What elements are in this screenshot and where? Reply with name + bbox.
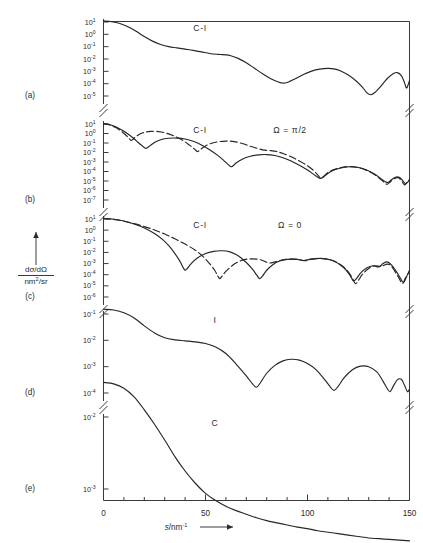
y-tick-label-b-1: 100 (85, 128, 96, 138)
y-tick-label-c-3: 10-2 (83, 247, 96, 257)
y-tick-label-a-0: 101 (85, 17, 96, 27)
y-tick-label-a-3: 10-2 (83, 54, 96, 64)
curve-condition-c: Ω = 0 (278, 220, 302, 230)
curve-label-b: C-I (193, 125, 206, 135)
y-tick-label-b-5: 10-4 (83, 166, 96, 176)
y-tick-label-a-1: 100 (85, 29, 96, 39)
curve-label-e: C (212, 418, 219, 428)
y-tick-label-d-0: 10-1 (83, 309, 96, 319)
y-tick-label-c-7: 10-6 (83, 292, 96, 302)
y-tick-label-e-0: 10-2 (83, 412, 96, 422)
curve-b-0 (104, 124, 410, 184)
y-tick-label-c-0: 101 (85, 214, 96, 224)
scattering-cross-section-figure: 10110010-110-210-310-410-5C-I(a)10110010… (0, 0, 423, 543)
x-axis-title: s/nm-1 (165, 522, 188, 532)
y-axis-title-numerator: dσ/dΩ (25, 265, 47, 274)
y-tick-label-b-6: 10-5 (83, 176, 96, 186)
y-tick-label-b-7: 10-6 (83, 185, 96, 195)
x-tick-label-2: 100 (301, 509, 315, 518)
panel-letter-c: (c) (25, 292, 35, 301)
y-tick-label-e-1: 10-3 (83, 484, 96, 494)
curve-d-0 (104, 309, 410, 392)
panel-letter-a: (a) (25, 91, 35, 100)
y-axis-arrow-head (33, 232, 39, 238)
y-tick-label-d-3: 10-4 (83, 388, 96, 398)
y-tick-label-c-5: 10-4 (83, 269, 96, 279)
curve-label-d: I (214, 315, 217, 325)
y-tick-label-a-5: 10-4 (83, 78, 96, 88)
curve-condition-b: Ω = π/2 (273, 125, 307, 135)
curve-b-1 (104, 124, 410, 185)
y-tick-label-c-6: 10-5 (83, 280, 96, 290)
x-tick-label-1: 50 (201, 509, 211, 518)
panel-letter-e: (e) (25, 484, 35, 493)
y-tick-label-c-1: 100 (85, 225, 96, 235)
x-tick-label-3: 150 (403, 509, 417, 518)
y-tick-label-c-4: 10-3 (83, 258, 96, 268)
curve-label-a: C-I (193, 23, 206, 33)
y-axis-title-denominator: nm2/sr (24, 276, 47, 286)
y-tick-label-d-2: 10-3 (83, 361, 96, 371)
curve-e-0 (104, 382, 410, 540)
y-tick-label-d-1: 10-2 (83, 335, 96, 345)
panel-letter-d: (d) (25, 388, 35, 397)
y-tick-label-a-6: 10-5 (83, 91, 96, 101)
panel-letter-b: (b) (25, 195, 35, 204)
x-tick-label-0: 0 (101, 509, 106, 518)
y-tick-label-a-2: 10-1 (83, 41, 96, 51)
y-tick-label-a-4: 10-3 (83, 66, 96, 76)
x-axis-arrow-head (227, 524, 233, 530)
curve-label-c: C-I (193, 220, 206, 230)
y-tick-label-b-8: 10-7 (83, 195, 96, 205)
y-tick-label-b-2: 10-1 (83, 138, 96, 148)
y-tick-label-b-0: 101 (85, 119, 96, 129)
y-tick-label-c-2: 10-1 (83, 236, 96, 246)
curve-a-0 (104, 21, 410, 95)
y-tick-label-b-4: 10-3 (83, 157, 96, 167)
y-tick-label-b-3: 10-2 (83, 147, 96, 157)
